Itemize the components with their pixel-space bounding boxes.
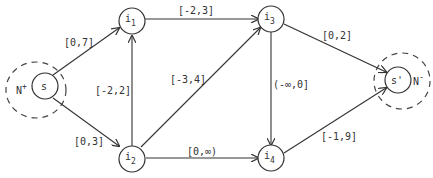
svg-text:s: s xyxy=(41,81,47,92)
region-label-n-minus: N- xyxy=(413,73,424,87)
svg-text:s': s' xyxy=(391,75,403,86)
edge-s-i1 xyxy=(53,28,119,75)
edge-i2-i3 xyxy=(141,28,260,147)
edge-label-i2-i1: [-2,2] xyxy=(95,85,131,96)
edge-label-s-i2: [0,3] xyxy=(74,136,104,147)
edge-label-i1-i3: [-2,3] xyxy=(178,5,214,16)
node-s-prime: s' xyxy=(385,67,411,93)
network-flow-diagram: [0,7] [0,3] [-2,2] [-2,3] [-3,4] [0,∞) (… xyxy=(0,0,433,178)
edge-label-i3-i4: (-∞,0] xyxy=(273,79,309,90)
edge-label-i4-t: [-1,9] xyxy=(321,131,357,142)
region-label-n-plus: N+ xyxy=(16,82,27,96)
edge-label-s-i1: [0,7] xyxy=(64,37,94,48)
node-i2: i2 xyxy=(119,146,145,172)
edge-label-i3-t: [0,2] xyxy=(322,30,352,41)
edge-i4-t xyxy=(284,88,386,153)
node-i4: i4 xyxy=(258,145,284,171)
node-i1: i1 xyxy=(119,8,145,34)
node-i3: i3 xyxy=(258,6,284,32)
node-s: s xyxy=(32,73,58,99)
edge-label-i2-i4: [0,∞) xyxy=(187,146,217,157)
edge-label-i2-i3: [-3,4] xyxy=(170,74,206,85)
